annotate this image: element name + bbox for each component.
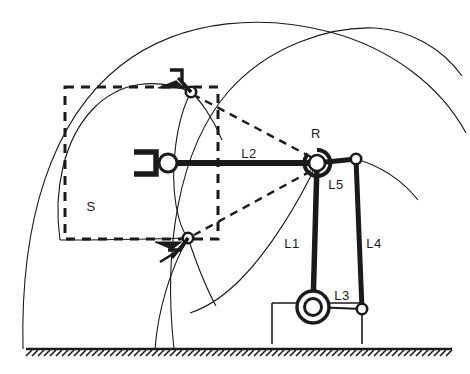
lower-joint-locus-arc — [188, 238, 216, 306]
label-L1: L1 — [284, 236, 299, 251]
gripper-fork-shape — [134, 152, 156, 174]
revolute-joint-R-inner-circle — [309, 155, 325, 171]
base-pivot-joint — [297, 291, 329, 323]
pin-joints-group — [183, 87, 367, 314]
l4-l3-pin-joint — [357, 304, 367, 314]
tool-pivot-circle — [159, 154, 177, 172]
link-L4-bar — [356, 159, 362, 309]
lower-arrow-head — [155, 242, 181, 249]
outer-trajectory-arc — [23, 22, 466, 349]
lower-arrow-diagonal — [172, 238, 188, 258]
upper-effector-arrow-marker — [158, 70, 191, 92]
label-L4: L4 — [366, 236, 381, 251]
diagram-canvas: R L2 L5 L1 L4 L3 S — [0, 0, 470, 374]
workspace-arc-group — [23, 22, 466, 349]
l4-tip-locus-arc — [356, 159, 418, 200]
mechanism-diagram-figure: R L2 L5 L1 L4 L3 S — [0, 0, 470, 374]
dashed-line-R-to-lower-joint — [194, 171, 311, 235]
tool-gripper — [134, 152, 177, 174]
ground-group — [26, 349, 452, 356]
l5-l4-pin-joint — [351, 154, 361, 164]
label-L5: L5 — [328, 177, 343, 192]
link-L1-bar — [313, 163, 317, 307]
label-L3: L3 — [334, 288, 349, 303]
label-R: R — [311, 126, 321, 141]
base-pivot-inner-ring — [305, 299, 322, 316]
ground-hatching — [26, 350, 452, 356]
label-L2: L2 — [241, 146, 256, 161]
label-S: S — [86, 199, 95, 214]
